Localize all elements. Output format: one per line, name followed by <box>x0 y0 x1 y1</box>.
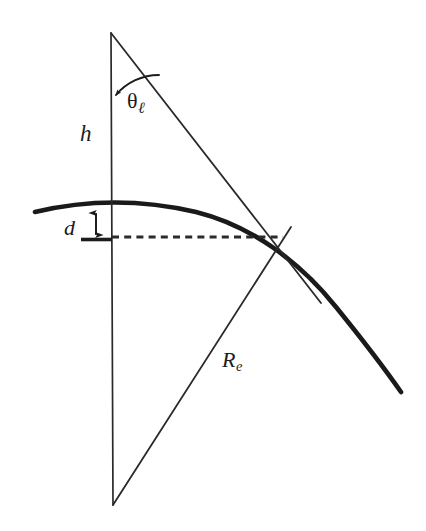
label-radius: Re <box>222 349 242 374</box>
label-d-text: d <box>64 215 75 240</box>
label-h: h <box>80 122 92 145</box>
label-radius-symbol: R <box>222 347 235 372</box>
geometry-figure <box>0 0 426 531</box>
earth-radius-line <box>113 227 291 505</box>
label-theta-symbol: θ <box>127 88 138 113</box>
label-theta-subscript: ℓ <box>138 99 145 116</box>
diagram-canvas: h θℓ d Re <box>0 0 426 531</box>
label-h-text: h <box>80 121 92 146</box>
height-vertical-line <box>111 33 113 505</box>
label-d: d <box>64 217 75 239</box>
label-theta: θℓ <box>127 90 145 116</box>
line-of-sight-line <box>111 33 321 303</box>
label-radius-subscript: e <box>235 358 242 374</box>
earth-surface-arc <box>35 203 401 392</box>
